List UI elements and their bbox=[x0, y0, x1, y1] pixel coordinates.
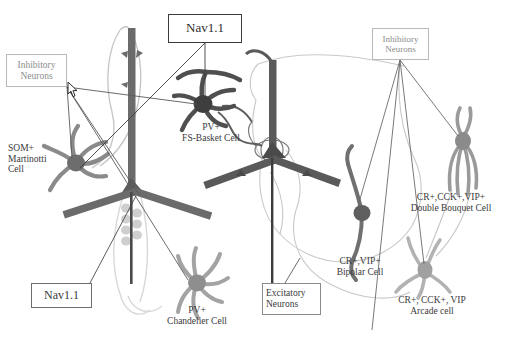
chandelier-soma bbox=[188, 275, 206, 292]
box-line-2: Neurons bbox=[266, 299, 298, 310]
box-excitatory-neurons[interactable]: Excitatory Neurons bbox=[262, 283, 321, 315]
label-line-1: PV+ bbox=[168, 122, 254, 133]
label-pv-fs-basket-cell: PV+ FS-Basket Cell bbox=[168, 122, 254, 143]
label-line-2: Double Bouquet Cell bbox=[398, 203, 504, 214]
box-line-1: Nav1.1 bbox=[186, 21, 224, 36]
pyramidal-cell-right bbox=[203, 51, 341, 284]
label-cr-cck-vip-arcade-cell: CR+, CCK+, VIP Arcade cell bbox=[380, 295, 484, 316]
label-pv-chandelier-cell: PV+ Chandelier Cell bbox=[152, 305, 242, 326]
label-line-2: FS-Basket Cell bbox=[168, 133, 254, 144]
label-line-2: Chandelier Cell bbox=[152, 316, 242, 327]
box-line-1: Inhibitory bbox=[18, 60, 56, 71]
box-line-1: Inhibitory bbox=[383, 34, 419, 44]
figure-canvas: Inhibitory Neurons Nav1.1 Inhibitory Neu… bbox=[0, 0, 506, 338]
box-line-1: Excitatory bbox=[266, 288, 306, 299]
fs-basket-soma bbox=[194, 95, 213, 113]
box-nav11-bottom[interactable]: Nav1.1 bbox=[31, 283, 92, 308]
bipolar-soma bbox=[354, 205, 371, 221]
label-line-2: Martinotti bbox=[8, 154, 47, 165]
label-line-1: CR+,CCK+,VIP+ bbox=[398, 192, 504, 203]
pyramidal-cell-left bbox=[63, 28, 213, 284]
label-cr-cck-vip-double-bouquet-cell: CR+,CCK+,VIP+ Double Bouquet Cell bbox=[398, 192, 504, 213]
box-line-2: Neurons bbox=[20, 71, 52, 82]
label-line-1: PV+ bbox=[152, 305, 242, 316]
label-line-2: Bipolar Cell bbox=[323, 267, 397, 278]
label-som-martinotti-cell: SOM+ Martinotti Cell bbox=[8, 143, 47, 175]
arcade-soma bbox=[418, 261, 433, 279]
double-bouquet-cell bbox=[450, 108, 477, 194]
label-line-3: Cell bbox=[8, 164, 47, 175]
label-line-1: CR+, CCK+, VIP bbox=[380, 295, 484, 306]
mouse-pointer-icon bbox=[67, 82, 79, 98]
box-inhibitory-neurons-left[interactable]: Inhibitory Neurons bbox=[6, 54, 67, 87]
box-nav11-top[interactable]: Nav1.1 bbox=[168, 14, 242, 43]
box-line-1: Nav1.1 bbox=[44, 289, 79, 303]
box-line-2: Neurons bbox=[385, 44, 416, 54]
label-line-1: SOM+ bbox=[8, 143, 47, 154]
label-line-2: Arcade cell bbox=[380, 306, 484, 317]
label-cr-vip-bipolar-cell: CR+,VIP+ Bipolar Cell bbox=[323, 256, 397, 277]
label-line-1: CR+,VIP+ bbox=[323, 256, 397, 267]
box-inhibitory-neurons-right[interactable]: Inhibitory Neurons bbox=[372, 28, 429, 60]
martinotti-soma bbox=[67, 155, 85, 172]
